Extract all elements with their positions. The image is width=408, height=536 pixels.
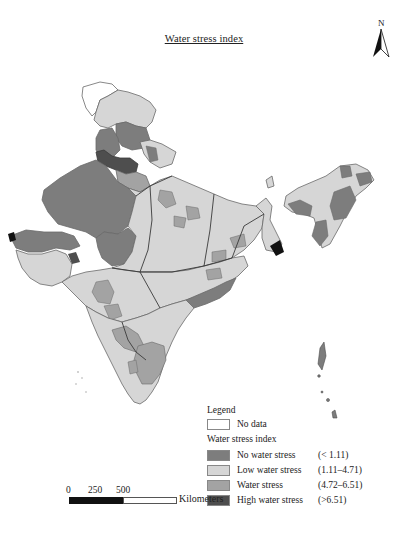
legend-item-no-water-stress: No water stress (< 1.11) [207, 450, 407, 463]
legend-range: (< 1.11) [318, 450, 348, 460]
lakshadweep-islands [75, 371, 86, 392]
region-uttarakhand [140, 140, 176, 168]
region-tamilnadu-stress [134, 342, 166, 384]
scale-tick-0: 0 [66, 485, 71, 495]
legend-item-high-water-stress: High water stress (>6.51) [207, 495, 407, 508]
legend-label: Low water stress [237, 465, 301, 475]
andaman-nicobar-islands [318, 342, 337, 418]
legend-range: (1.11–4.71) [318, 465, 362, 475]
legend-label: High water stress [237, 495, 303, 505]
legend-item-water-stress: Water stress (4.72–6.51) [207, 480, 407, 493]
legend-range: (>6.51) [318, 495, 346, 505]
legend-swatch-no-data [207, 419, 230, 430]
region-gujarat-kutch [10, 230, 80, 252]
legend-heading: Legend [207, 405, 236, 415]
legend-item-no-data: No data [207, 419, 407, 432]
legend-label: No water stress [237, 450, 296, 460]
legend-label: Water stress [237, 480, 283, 490]
legend-item-low-water-stress: Low water stress (1.11–4.71) [207, 465, 407, 478]
legend-subheading: Water stress index [207, 434, 276, 444]
legend-swatch-water-stress [207, 480, 230, 491]
scale-bar-white-segment [123, 497, 177, 504]
scale-tick-250: 250 [88, 485, 102, 495]
scale-bar-black-segment [69, 497, 124, 504]
legend-range: (4.72–6.51) [318, 480, 362, 490]
scale-unit: Kilometers [179, 493, 223, 504]
region-sikkim [266, 176, 274, 188]
legend-label: No data [237, 419, 267, 429]
scale-tick-500: 500 [116, 485, 130, 495]
scale-bar: 0 250 500 Kilometers [66, 485, 196, 515]
legend-swatch-no-water-stress [207, 450, 230, 461]
region-northeast-stress-4 [340, 166, 352, 178]
legend-swatch-low-water-stress [207, 465, 230, 476]
